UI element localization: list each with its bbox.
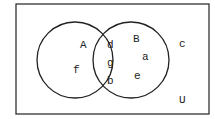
- set-a-label: A: [80, 39, 87, 51]
- set-b-circle: [93, 22, 169, 98]
- element-b: b: [107, 75, 114, 87]
- set-b-label: B: [133, 33, 140, 45]
- set-a-circle: [37, 22, 113, 98]
- element-e: e: [134, 70, 141, 82]
- element-d: d: [107, 39, 114, 51]
- element-c: c: [179, 38, 186, 50]
- element-a: a: [142, 51, 149, 63]
- universe-label: U: [179, 94, 186, 106]
- element-g: g: [107, 57, 114, 69]
- venn-diagram: A B f d g b a e c U: [0, 0, 215, 119]
- element-f: f: [73, 64, 80, 76]
